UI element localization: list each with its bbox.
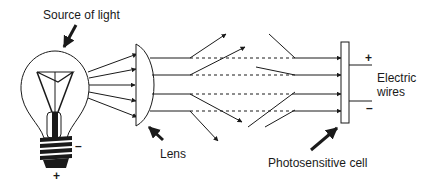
wires-label-line1: Electric <box>377 71 416 85</box>
lens-pointer-arrow <box>149 127 163 140</box>
bulb-minus-sign: – <box>75 140 82 152</box>
scattered-rays <box>190 34 245 141</box>
source-pointer-arrow <box>64 25 76 47</box>
wires-label-line2: wires <box>377 85 405 99</box>
lens-label: Lens <box>160 147 186 161</box>
wire-minus-sign: – <box>366 102 373 114</box>
wire-plus-sign: + <box>365 52 372 64</box>
photoelectric-diagram: Source of light Lens Photosensitive cell… <box>0 0 432 182</box>
lens-icon <box>136 44 154 126</box>
cell-pointer-arrow <box>311 128 337 150</box>
diagram-drawing <box>0 0 432 182</box>
cell-label: Photosensitive cell <box>268 156 367 170</box>
incident-rays <box>88 54 137 117</box>
source-label: Source of light <box>43 8 120 22</box>
photosensitive-cell-icon <box>341 42 349 123</box>
converging-rays <box>248 34 295 127</box>
parallel-rays <box>150 58 341 111</box>
bulb-plus-sign: + <box>53 170 60 182</box>
